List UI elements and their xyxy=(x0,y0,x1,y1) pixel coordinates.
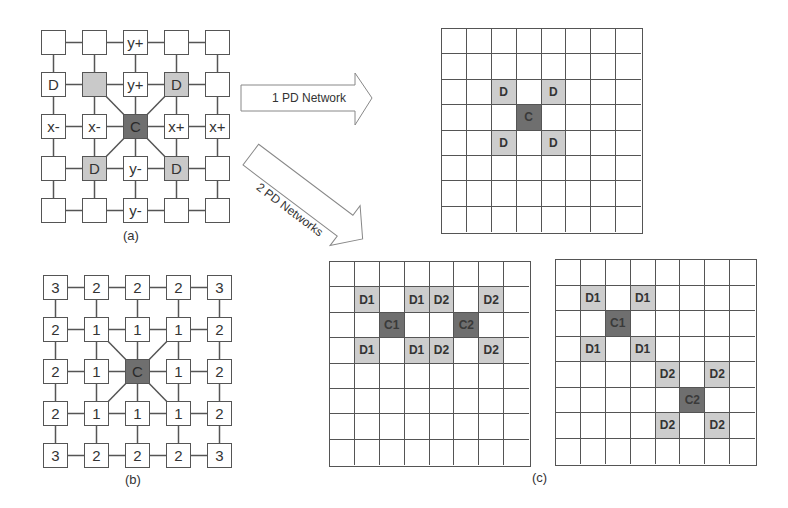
grid-cell xyxy=(454,338,479,363)
grid-cell xyxy=(705,260,730,286)
grid-cell xyxy=(405,440,430,465)
grid-cell xyxy=(730,388,755,414)
diagonal-cell: D2 xyxy=(430,338,455,363)
two-pd-networks-diagonal-grid: D1D1C1D1D1D2D2C2D2D2 xyxy=(555,259,757,466)
grid-cell xyxy=(705,388,730,414)
grid-cell xyxy=(581,362,606,388)
grid-cell xyxy=(591,156,616,181)
grid-cell xyxy=(606,439,631,465)
grid-cell xyxy=(380,440,405,465)
grid-cell xyxy=(405,389,430,414)
grid-cell xyxy=(330,440,355,465)
grid-cell xyxy=(730,337,755,363)
diagonal-cell: D2 xyxy=(430,287,455,312)
figure-canvas: y+Dy+Dx-x-Cx+x+Dy-Dy- (a) 322232111221C1… xyxy=(0,0,788,508)
grid-cell xyxy=(355,389,380,414)
grid-cell xyxy=(730,260,755,286)
grid-cell xyxy=(492,156,517,181)
grid-cell xyxy=(730,362,755,388)
grid-cell xyxy=(467,54,492,79)
grid-cell xyxy=(330,338,355,363)
grid-cell xyxy=(606,260,631,286)
grid-cell xyxy=(517,131,542,156)
grid-cell xyxy=(606,413,631,439)
grid-cell xyxy=(616,181,641,206)
grid-cell xyxy=(330,389,355,414)
grid-cell xyxy=(591,29,616,54)
grid-cell xyxy=(631,311,656,337)
grid-cell xyxy=(566,29,591,54)
grid-cell xyxy=(631,388,656,414)
diagonal-cell: D2 xyxy=(656,413,681,439)
center-cell: C1 xyxy=(606,311,631,337)
grid-cell xyxy=(380,262,405,287)
center-cell: C xyxy=(517,105,542,130)
grid-cell xyxy=(730,311,755,337)
diagonal-cell: D1 xyxy=(631,286,656,312)
diagonal-cell: D xyxy=(542,80,567,105)
diagonal-cell: D1 xyxy=(405,338,430,363)
grid-cell xyxy=(606,337,631,363)
grid-cell xyxy=(430,262,455,287)
grid-cell xyxy=(591,207,616,232)
diagonal-cell: D xyxy=(542,131,567,156)
grid-cell xyxy=(606,362,631,388)
grid-cell xyxy=(542,181,567,206)
grid-cell xyxy=(454,287,479,312)
diagonal-cell: D1 xyxy=(581,286,606,312)
grid-cell xyxy=(616,29,641,54)
grid-cell xyxy=(705,439,730,465)
grid-cell xyxy=(454,262,479,287)
diagonal-cell: D2 xyxy=(479,287,504,312)
grid-cell xyxy=(479,313,504,338)
grid-cell xyxy=(517,54,542,79)
grid-cell xyxy=(705,286,730,312)
grid-cell xyxy=(566,54,591,79)
grid-cell xyxy=(656,286,681,312)
grid-cell xyxy=(656,337,681,363)
grid-cell xyxy=(355,414,380,439)
grid-cell xyxy=(504,287,529,312)
grid-cell xyxy=(504,414,529,439)
grid-cell xyxy=(467,156,492,181)
diagonal-cell: D1 xyxy=(355,338,380,363)
grid-cell xyxy=(542,207,567,232)
grid-cell xyxy=(631,260,656,286)
grid-cell xyxy=(556,439,581,465)
grid-cell xyxy=(581,388,606,414)
grid-cell xyxy=(616,156,641,181)
arrow-1pd-label: 1 PD Network xyxy=(272,91,346,105)
grid-cell xyxy=(504,440,529,465)
grid-cell xyxy=(517,80,542,105)
grid-cell xyxy=(430,389,455,414)
diagonal-cell: D2 xyxy=(705,362,730,388)
grid-cell xyxy=(467,80,492,105)
grid-cell xyxy=(442,131,467,156)
grid-cell xyxy=(492,207,517,232)
grid-cell xyxy=(330,414,355,439)
grid-cell xyxy=(591,131,616,156)
grid-cell xyxy=(330,313,355,338)
grid-cell xyxy=(656,260,681,286)
grid-cell xyxy=(631,439,656,465)
grid-cell xyxy=(606,286,631,312)
grid-cell xyxy=(517,207,542,232)
grid-cell xyxy=(492,29,517,54)
diagonal-cell: D xyxy=(492,80,517,105)
diagonal-cell: D1 xyxy=(405,287,430,312)
grid-cell xyxy=(380,414,405,439)
center-cell: C2 xyxy=(454,313,479,338)
grid-cell xyxy=(467,29,492,54)
grid-cell xyxy=(606,388,631,414)
grid-cell xyxy=(380,389,405,414)
grid-cell xyxy=(581,413,606,439)
center-cell: C1 xyxy=(380,313,405,338)
grid-cell xyxy=(504,338,529,363)
grid-cell xyxy=(467,181,492,206)
grid-cell xyxy=(442,156,467,181)
grid-cell xyxy=(504,262,529,287)
grid-cell xyxy=(355,313,380,338)
grid-cell xyxy=(680,439,705,465)
grid-cell xyxy=(542,105,567,130)
grid-cell xyxy=(442,54,467,79)
